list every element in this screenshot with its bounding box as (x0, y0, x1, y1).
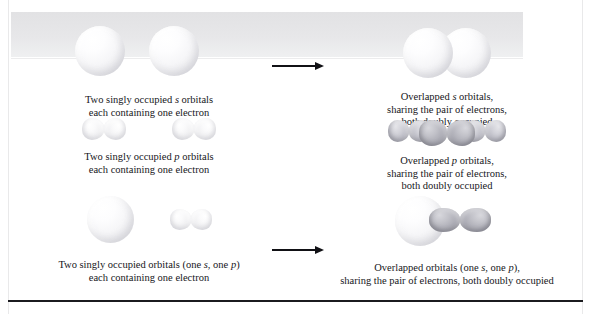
row-s-p-products: Overlapped orbitals (one s, one p),shari… (318, 196, 576, 276)
overlapped-s-sphere (403, 28, 453, 78)
caption-s-p-right: Overlapped orbitals (one s, one p),shari… (318, 262, 576, 287)
caption-line: sharing the pair of electrons, both doub… (318, 275, 576, 288)
caption-line: Overlapped p orbitals, (318, 155, 576, 168)
p-orbital-dumbbell (170, 209, 212, 230)
caption-line: Overlapped orbitals (one s, one p), (318, 262, 576, 275)
row-s-s: Two singly occupied s orbitalseach conta… (0, 18, 591, 114)
overlapped-s-sphere-and-p-dumbbell-art (318, 196, 576, 250)
bottom-divider-rule (8, 300, 583, 302)
p-orbital-dumbbell (82, 118, 126, 140)
two-separate-p-dumbbells-art (34, 118, 264, 144)
row-s-p: Two singly occupied orbitals (one s, one… (0, 196, 591, 276)
caption-line: both doubly occupied (318, 180, 576, 193)
separate-s-sphere-and-p-dumbbell-art (34, 196, 264, 247)
two-separate-s-spheres-art (34, 18, 264, 84)
overlapped-p-inner-lobe-pair (419, 120, 475, 146)
caption-line: Overlapped s orbitals, (318, 91, 576, 104)
row-s-s-reactants: Two singly occupied s orbitalseach conta… (34, 18, 264, 114)
two-overlapped-s-spheres-art (318, 18, 576, 82)
overlapped-p-dumbbells-art (318, 118, 576, 148)
row-s-p-reactants: Two singly occupied orbitals (one s, one… (34, 196, 264, 276)
caption-line: sharing the pair of electrons, (318, 104, 576, 117)
caption-s-p-left: Two singly occupied orbitals (one s, one… (34, 259, 264, 284)
s-orbital-sphere (75, 26, 125, 76)
reaction-arrow-icon (272, 62, 324, 70)
caption-line: each containing one electron (34, 272, 264, 285)
caption-line: sharing the pair of electrons, (318, 168, 576, 181)
overlapped-p-orbital-dumbbell (429, 208, 491, 232)
caption-line: each containing one electron (34, 164, 264, 177)
orbital-overlap-figure: Two singly occupied s orbitalseach conta… (0, 0, 591, 314)
s-orbital-sphere (149, 26, 199, 76)
caption-p-p-right: Overlapped p orbitals,sharing the pair o… (318, 155, 576, 193)
caption-line: Two singly occupied s orbitals (34, 94, 264, 107)
s-orbital-sphere (87, 196, 134, 243)
row-p-p-products: Overlapped p orbitals,sharing the pair o… (318, 118, 576, 192)
caption-s-s-left: Two singly occupied s orbitalseach conta… (34, 94, 264, 119)
row-s-s-products: Overlapped s orbitals,sharing the pair o… (318, 18, 576, 114)
caption-p-p-left: Two singly occupied p orbitalseach conta… (34, 151, 264, 176)
row-p-p-reactants: Two singly occupied p orbitalseach conta… (34, 118, 264, 192)
row-p-p: Two singly occupied p orbitalseach conta… (0, 118, 591, 192)
caption-line: Two singly occupied orbitals (one s, one… (34, 259, 264, 272)
caption-line: Two singly occupied p orbitals (34, 151, 264, 164)
p-orbital-dumbbell (172, 118, 216, 140)
